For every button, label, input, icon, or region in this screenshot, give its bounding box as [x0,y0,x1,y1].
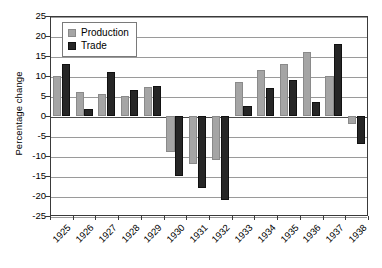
y-tick-label: -10 [18,151,46,161]
gridline [51,97,367,98]
gridline [51,177,367,178]
x-tick-label: 1935 [273,222,301,250]
x-tick-label: 1927 [91,222,119,250]
y-tick-mark [45,196,50,197]
gridline [51,157,367,158]
x-tick-label: 1938 [341,222,369,250]
x-tick-label: 1937 [318,222,346,250]
x-tick-mark [141,216,142,220]
x-tick-label: 1928 [114,222,142,250]
x-tick-label: 1936 [295,222,323,250]
gridline [51,197,367,198]
y-tick-mark [45,156,50,157]
y-tick-mark [45,76,50,77]
legend-swatch-production-icon [68,29,76,37]
legend-label-trade: Trade [81,41,107,51]
gridline [51,117,367,118]
y-tick-mark [45,16,50,17]
x-tick-mark [73,216,74,220]
y-tick-label: 20 [18,31,46,41]
x-tick-label: 1929 [136,222,164,250]
x-tick-mark [323,216,324,220]
y-tick-mark [45,56,50,57]
x-tick-label: 1930 [159,222,187,250]
x-tick-mark [209,216,210,220]
y-tick-mark [45,176,50,177]
x-tick-label: 1933 [227,222,255,250]
x-tick-label: 1925 [46,222,74,250]
x-tick-label: 1934 [250,222,278,250]
y-tick-mark [45,116,50,117]
x-tick-label: 1926 [68,222,96,250]
y-tick-mark [45,36,50,37]
x-tick-label: 1931 [182,222,210,250]
gridline [51,57,367,58]
y-tick-label: 15 [18,51,46,61]
legend-swatch-trade-icon [68,42,76,50]
y-tick-label: -20 [18,191,46,201]
x-tick-mark [164,216,165,220]
x-tick-mark [232,216,233,220]
x-tick-mark [95,216,96,220]
x-tick-label: 1932 [205,222,233,250]
y-tick-label: 25 [18,11,46,21]
x-tick-mark [277,216,278,220]
y-tick-mark [45,96,50,97]
x-tick-mark [50,216,51,220]
x-tick-mark [345,216,346,220]
gridline [51,77,367,78]
legend-item-trade: Trade [68,39,129,52]
x-tick-mark [186,216,187,220]
x-tick-mark [254,216,255,220]
legend-label-production: Production [81,28,129,38]
y-tick-label: 5 [18,91,46,101]
bar-chart: Percentage change 2520151050-5-10-15-20-… [0,0,382,268]
gridline [51,137,367,138]
y-tick-mark [45,136,50,137]
y-tick-label: -25 [18,211,46,221]
legend: Production Trade [62,22,137,57]
y-tick-label: -5 [18,131,46,141]
y-tick-label: 0 [18,111,46,121]
y-tick-label: 10 [18,71,46,81]
x-tick-mark [300,216,301,220]
x-tick-mark [118,216,119,220]
legend-item-production: Production [68,26,129,39]
y-tick-label: -15 [18,171,46,181]
gridline [51,17,367,18]
x-tick-mark [368,216,369,220]
